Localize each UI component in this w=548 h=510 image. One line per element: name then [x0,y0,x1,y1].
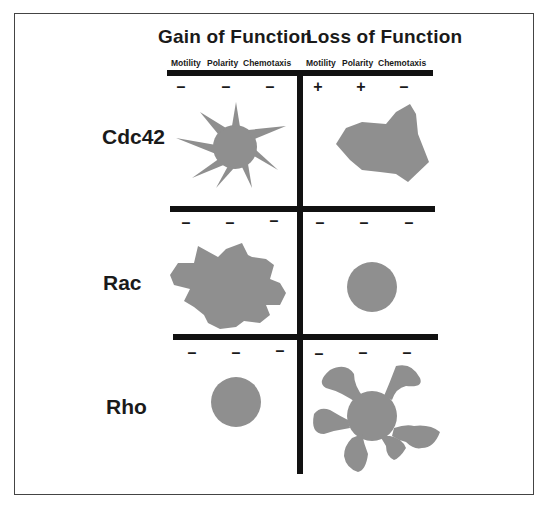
sign-cdc42-loss-motility: + [308,79,328,95]
row-label-rho: Rho [106,395,147,419]
col-gain-polarity: Polarity [207,58,238,68]
cdc42-loss-irregular-cell [334,104,434,188]
col-gain-chemotaxis: Chemotaxis [243,58,291,68]
loss-of-function-title: Loss of Function [306,26,462,48]
col-gain-motility: Motility [171,58,201,68]
sign-rho-gain-chemotaxis: – [270,343,290,359]
sign-rho-loss-motility: – [309,346,329,362]
sign-rac-loss-motility: – [310,215,330,231]
sign-rho-loss-polarity: – [353,345,373,361]
sign-rho-gain-polarity: – [226,345,246,361]
sign-cdc42-loss-chemotaxis: – [394,79,414,95]
sign-rho-gain-motility: – [182,345,202,361]
rho-gain-round-cell [210,376,262,428]
sign-cdc42-gain-chemotaxis: – [260,79,280,95]
sign-rac-loss-chemotaxis: – [399,215,419,231]
gain-of-function-title: Gain of Function [158,26,312,48]
sign-cdc42-loss-polarity: + [351,79,371,95]
rac-gain-ruffled-cell [170,243,292,333]
sign-rac-gain-chemotaxis: – [264,213,284,229]
sign-cdc42-gain-motility: – [171,79,191,95]
sign-cdc42-gain-polarity: – [216,79,236,95]
rho-loss-lobed-cell [306,362,446,474]
cdc42-gain-spiky-cell [170,100,290,190]
sign-rac-gain-polarity: – [220,215,240,231]
row-divider-2 [173,334,438,340]
col-loss-polarity: Polarity [342,58,373,68]
gain-loss-divider [297,70,303,474]
sign-rho-loss-chemotaxis: – [397,345,417,361]
sign-rac-loss-polarity: – [354,215,374,231]
col-loss-motility: Motility [306,58,336,68]
row-label-rac: Rac [103,271,142,295]
col-loss-chemotaxis: Chemotaxis [378,58,426,68]
rac-loss-round-cell [346,262,398,312]
sign-rac-gain-motility: – [176,215,196,231]
row-label-cdc42: Cdc42 [102,125,165,149]
